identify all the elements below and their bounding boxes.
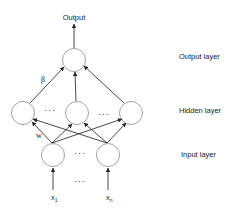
- hidden-ellipsis-1: ···: [44, 105, 56, 115]
- edge-hidden2-output: [75, 72, 76, 101]
- hidden-ellipsis-2: ···: [98, 109, 110, 119]
- edge-hidden3-output: [84, 66, 124, 103]
- hidden-layer-label: Hidden layer: [179, 106, 222, 115]
- edge-in1-h3: [52, 119, 122, 143]
- w-weight-label: w: [36, 131, 42, 140]
- input-label-xn: xn: [106, 193, 113, 203]
- hidden-node-1: [12, 102, 35, 125]
- input-arrows-ellipsis: ···: [74, 176, 86, 186]
- input-node-1: [42, 144, 65, 167]
- hidden-node-2: [66, 102, 89, 125]
- output-layer-label: Output layer: [179, 52, 220, 61]
- edge-in1-h1: [32, 122, 52, 143]
- edge-inN-h3: [107, 123, 126, 143]
- input-ellipsis: ···: [74, 148, 86, 158]
- beta-weight-label: β: [41, 75, 45, 84]
- edge-inN-h2: [84, 123, 107, 143]
- edge-in1-h2: [52, 124, 72, 143]
- input-label-x1: x1: [51, 193, 58, 203]
- hidden-node-3: [120, 102, 143, 125]
- edge-hidden1-output: [30, 67, 64, 103]
- output-label: Output: [63, 13, 86, 22]
- neural-network-diagram: Output β ··· ··· w ··· ··· x1 xn Output …: [0, 0, 234, 214]
- input-layer-label: Input layer: [181, 150, 217, 159]
- input-node-n: [97, 144, 120, 167]
- output-node: [63, 49, 86, 72]
